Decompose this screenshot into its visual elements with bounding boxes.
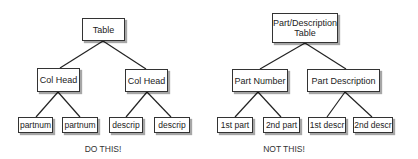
node-label: descrip	[158, 120, 185, 130]
node-part-description-table: Part/Description Table	[272, 13, 338, 43]
node-label: partnum	[20, 120, 51, 130]
node-col-head-2: Col Head	[125, 69, 168, 92]
node-label: partnum	[64, 120, 95, 130]
node-1st-part: 1st part	[217, 117, 253, 133]
node-label-line1: Part/Description	[273, 18, 337, 28]
caption-not-this: NOT THIS!	[254, 144, 314, 154]
node-1st-descr: 1st descr	[308, 117, 346, 133]
node-label: descrip	[112, 120, 139, 130]
node-part-description: Part Description	[307, 69, 380, 92]
node-2nd-descr: 2nd descr	[353, 117, 393, 133]
node-part-number: Part Number	[232, 69, 288, 92]
node-label: Col Head	[40, 75, 78, 85]
node-label: 1st descr	[310, 120, 345, 130]
node-descrip-2: descrip	[154, 117, 190, 133]
node-label: Col Head	[128, 76, 166, 86]
node-label: Part Description	[311, 76, 375, 86]
node-descrip-1: descrip	[109, 117, 143, 133]
node-label-line2: Table	[294, 28, 316, 38]
node-label: 1st part	[221, 120, 249, 130]
node-partnum-2: partnum	[62, 117, 98, 133]
node-label: Table	[93, 25, 115, 35]
caption-do-this: DO THIS!	[73, 144, 133, 154]
node-label: 2nd part	[266, 120, 297, 130]
node-label: Part Number	[234, 76, 285, 86]
node-2nd-part: 2nd part	[263, 117, 300, 133]
node-partnum-1: partnum	[18, 117, 53, 133]
node-table: Table	[82, 18, 125, 41]
node-label: 2nd descr	[354, 120, 391, 130]
node-col-head-1: Col Head	[37, 68, 80, 92]
